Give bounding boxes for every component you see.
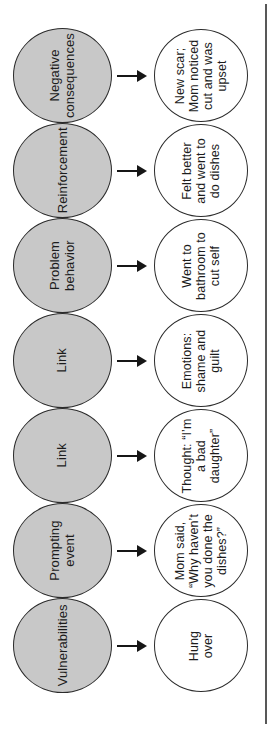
stage-label: Link [55, 443, 70, 467]
stage-label: Problem behavior [48, 240, 77, 291]
arrow-line [117, 455, 139, 457]
page-edge-rule [265, 4, 267, 724]
detail-text: Felt better and went to do dishes [180, 138, 222, 204]
detail-text: Thought: “I’m a bad daughter” [180, 418, 222, 493]
stage-circle: Problem behavior [13, 218, 112, 313]
chain-row-link-thought: Link Thought: “I’m a bad daughter” [0, 408, 273, 503]
arrow-line [117, 360, 139, 362]
arrow-line [117, 170, 139, 172]
arrowhead-right-icon [137, 355, 147, 367]
chain-row-prompting-event: Prompting event Mom said, “Why haven’t y… [0, 503, 273, 598]
flow-arrow [117, 355, 147, 367]
detail-circle: Mom said, “Why haven’t you done the dish… [154, 504, 248, 597]
arrow-line [117, 550, 139, 552]
arrow-line [117, 645, 139, 647]
stage-label: Negative consequences [48, 33, 77, 118]
arrow-line [117, 75, 139, 77]
chain-row-problem-behavior: Problem behavior Went to bathroom to cut… [0, 218, 273, 313]
detail-circle: Went to bathroom to cut self [154, 219, 248, 312]
chain-analysis-diagram: Negative consequences New scar; Mom noti… [0, 0, 273, 742]
flow-arrow [117, 450, 147, 462]
stage-circle: Vulnerabilities [13, 598, 112, 693]
stage-label: Prompting event [48, 520, 77, 580]
detail-text: Hung over [187, 630, 215, 660]
arrow-line [117, 265, 139, 267]
chain-row-link-emotions: Link Emotions: shame and guilt [0, 313, 273, 408]
stage-circle: Link [13, 313, 112, 408]
diagram-rows: Negative consequences New scar; Mom noti… [0, 28, 273, 693]
flow-arrow [117, 640, 147, 652]
stage-label: Reinforcement [55, 128, 70, 214]
detail-circle: Felt better and went to do dishes [154, 124, 248, 217]
flow-arrow [117, 260, 147, 272]
stage-label: Vulnerabilities [55, 605, 70, 687]
detail-circle: New scar; Mom noticed cut and was upset [154, 29, 248, 122]
flow-arrow [117, 545, 147, 557]
detail-circle: Emotions: shame and guilt [154, 314, 248, 407]
stage-circle: Reinforcement [13, 123, 112, 218]
detail-circle: Thought: “I’m a bad daughter” [154, 409, 248, 502]
arrowhead-right-icon [137, 640, 147, 652]
chain-row-negative-consequences: Negative consequences New scar; Mom noti… [0, 28, 273, 123]
arrowhead-right-icon [137, 545, 147, 557]
detail-text: Emotions: shame and guilt [180, 329, 222, 392]
stage-circle: Negative consequences [13, 28, 112, 123]
arrowhead-right-icon [137, 165, 147, 177]
detail-circle: Hung over [154, 599, 248, 692]
arrowhead-right-icon [137, 70, 147, 82]
stage-label: Link [55, 348, 70, 372]
detail-text: Mom said, “Why haven’t you done the dish… [173, 513, 229, 587]
arrowhead-right-icon [137, 450, 147, 462]
stage-circle: Prompting event [13, 503, 112, 598]
flow-arrow [117, 70, 147, 82]
chain-row-vulnerabilities: Vulnerabilities Hung over [0, 598, 273, 693]
detail-text: New scar; Mom noticed cut and was upset [173, 39, 229, 112]
detail-text: Went to bathroom to cut self [180, 232, 222, 300]
stage-circle: Link [13, 408, 112, 503]
arrowhead-right-icon [137, 260, 147, 272]
chain-row-reinforcement: Reinforcement Felt better and went to do… [0, 123, 273, 218]
flow-arrow [117, 165, 147, 177]
